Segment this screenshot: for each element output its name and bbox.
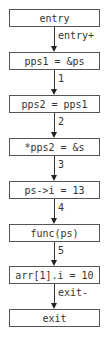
edge-line — [54, 27, 55, 46]
arrow-down-icon — [51, 218, 57, 224]
edge-line — [54, 199, 55, 218]
arrow-down-icon — [51, 175, 57, 181]
node-entry: entry — [9, 9, 100, 27]
edge-label: 1 — [58, 73, 64, 85]
edge-label: exit- — [58, 287, 88, 299]
edge-label: 2 — [58, 116, 64, 128]
edge-line — [54, 242, 55, 260]
edge-label: 5 — [58, 245, 64, 257]
arrow-down-icon — [51, 89, 57, 95]
arrow-down-icon — [51, 46, 57, 52]
edge-label: 4 — [58, 202, 64, 214]
edge-label: 3 — [58, 159, 64, 171]
arrow-down-icon — [51, 260, 57, 266]
arrow-down-icon — [51, 132, 57, 138]
node-deref-pps2-assign: *pps2 = &s — [9, 138, 100, 156]
node-exit: exit — [9, 309, 100, 327]
edge-label: entry+ — [58, 30, 94, 42]
edge-line — [54, 113, 55, 132]
node-arr-assign: arr[1].i = 10 — [9, 266, 100, 284]
edge-line — [54, 70, 55, 89]
node-ps-i-assign: ps->i = 13 — [9, 181, 100, 199]
node-pps2-assign: pps2 = pps1 — [9, 95, 100, 113]
node-pps1-assign: pps1 = &ps — [9, 52, 100, 70]
arrow-down-icon — [51, 303, 57, 309]
edge-line — [54, 284, 55, 303]
edge-line — [54, 156, 55, 175]
node-func-call: func(ps) — [9, 224, 100, 242]
